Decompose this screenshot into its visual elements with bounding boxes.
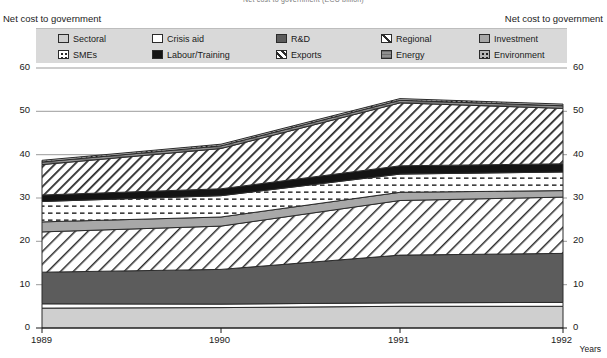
y-tick-left-30: 30 [8,191,30,202]
y-tick-left-60: 60 [8,61,30,72]
y-tick-right-0: 0 [573,321,595,332]
stacked-area-chart [0,0,607,358]
y-tick-right-40: 40 [573,148,595,159]
y-tick-right-50: 50 [573,104,595,115]
y-tick-left-50: 50 [8,104,30,115]
area-sectoral [42,306,563,328]
x-tick-1990: 1990 [209,334,230,345]
area-series-group [42,99,563,328]
y-tick-right-30: 30 [573,191,595,202]
y-tick-left-20: 20 [8,234,30,245]
y-tick-left-40: 40 [8,148,30,159]
y-tick-right-10: 10 [573,278,595,289]
x-tick-1992: 1992 [551,334,572,345]
chart-plot-area: 60 50 40 30 20 10 0 60 50 40 30 20 10 0 … [0,0,607,358]
x-tick-1989: 1989 [31,334,52,345]
y-tick-right-20: 20 [573,234,595,245]
y-tick-right-60: 60 [573,61,595,72]
y-tick-left-0: 0 [8,321,30,332]
y-tick-left-10: 10 [8,278,30,289]
x-axis-ticks [42,328,563,333]
x-tick-1991: 1991 [388,334,409,345]
